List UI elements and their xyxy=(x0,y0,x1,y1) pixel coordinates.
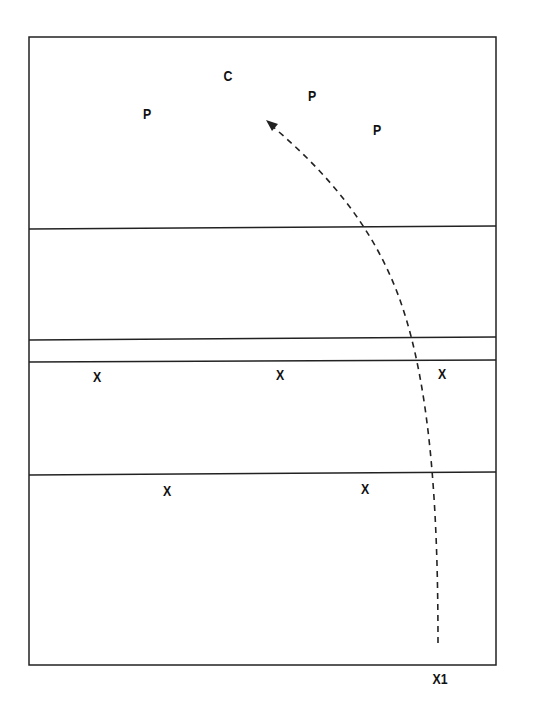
route-arrowhead-icon xyxy=(266,120,278,131)
field-line-2 xyxy=(29,337,496,340)
player-marker-p: P xyxy=(143,106,151,121)
field-line-3 xyxy=(29,360,496,362)
player-marker-c: C xyxy=(224,68,233,83)
player-marker-x: X xyxy=(361,481,369,496)
player-marker-p: P xyxy=(373,122,381,137)
player-marker-p: P xyxy=(308,88,316,103)
field-line-4 xyxy=(29,472,496,475)
player-marker-x: X xyxy=(93,369,101,384)
player-marker-x: X xyxy=(163,483,171,498)
field-line-1 xyxy=(29,226,496,229)
player-marker-x: X xyxy=(276,367,284,382)
player-marker-x: X xyxy=(438,366,446,381)
play-diagram xyxy=(0,0,535,714)
field-boundary xyxy=(29,37,496,665)
route-path xyxy=(272,126,438,643)
player-marker-x1: X1 xyxy=(432,671,447,686)
